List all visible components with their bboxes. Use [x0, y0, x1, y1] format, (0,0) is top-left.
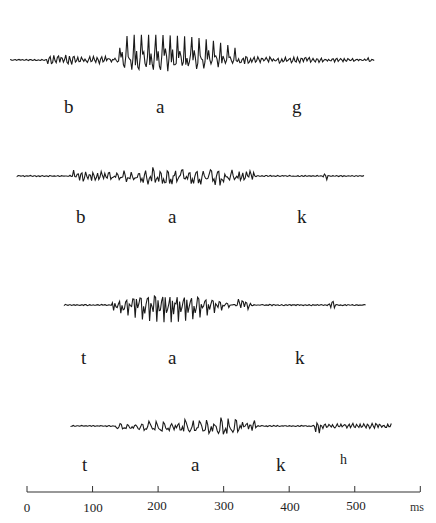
tick-label-200: 200	[147, 499, 167, 512]
tick-label-500: 500	[346, 499, 366, 512]
waveform-tak	[64, 296, 365, 322]
segment-label-a: a	[168, 348, 176, 367]
segment-label-b: b	[76, 207, 86, 226]
time-axis	[27, 486, 420, 492]
waveforms-svg	[0, 0, 436, 523]
waveform-figure: b a g b a k t a k t a k h 0 100 200 300 …	[0, 0, 436, 523]
waveform-trace	[64, 296, 365, 322]
waveform-trace	[71, 418, 391, 435]
tick-label-100: 100	[83, 501, 103, 514]
segment-label-t: t	[82, 455, 87, 474]
segment-label-k: k	[295, 348, 305, 367]
axis-unit-label: ms	[410, 501, 424, 513]
segment-label-k: k	[276, 455, 286, 474]
waveform-bak	[17, 167, 364, 185]
segment-label-k: k	[297, 207, 307, 226]
waveform-trace	[17, 167, 364, 185]
segment-label-h-superscript: h	[340, 453, 347, 467]
segment-label-a: a	[156, 97, 164, 116]
tick-label-0: 0	[24, 501, 31, 514]
segment-label-a: a	[168, 207, 176, 226]
tick-label-300: 300	[214, 499, 234, 512]
waveform-trace	[11, 35, 375, 71]
segment-label-g: g	[292, 97, 302, 116]
waveform-bag	[11, 35, 375, 71]
segment-label-t: t	[81, 348, 86, 367]
waveform-takh	[71, 418, 391, 435]
segment-label-a: a	[191, 455, 199, 474]
tick-label-400: 400	[280, 500, 300, 513]
segment-label-b: b	[64, 97, 74, 116]
